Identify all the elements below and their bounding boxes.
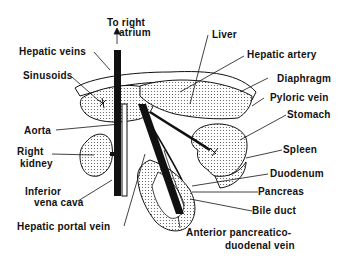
label-pyloric-vein: Pyloric vein	[270, 92, 329, 103]
hepatic-portal-diagram: To right atrium Hepatic veins Sinusoids …	[0, 0, 344, 260]
right-kidney-shape	[80, 134, 112, 176]
label-spleen: Spleen	[283, 144, 317, 155]
label-duodenum: Duodenum	[270, 168, 324, 179]
label-hepatic-portal-vein: Hepatic portal vein	[17, 221, 110, 232]
label-bile-duct: Bile duct	[252, 205, 296, 216]
aorta-vessel	[122, 104, 127, 196]
label-pancreas: Pancreas	[258, 186, 304, 197]
label-diaphragm: Diaphragm	[277, 73, 331, 84]
inferior-vena-cava-vessel	[114, 50, 121, 196]
label-liver: Liver	[212, 29, 237, 40]
label-aorta: Aorta	[24, 125, 51, 136]
label-inferior-vena-cava-2: vena cava	[34, 197, 84, 208]
label-to-right-atrium-2: atrium	[119, 27, 151, 38]
label-sinusoids: Sinusoids	[23, 70, 73, 81]
label-right-kidney-1: Right	[17, 146, 44, 157]
label-hepatic-artery: Hepatic artery	[247, 49, 317, 60]
label-stomach: Stomach	[287, 109, 331, 120]
label-right-kidney-2: kidney	[20, 158, 53, 169]
label-hepatic-veins: Hepatic veins	[19, 46, 86, 57]
label-anterior-pancreaticoduodenal-vein-1: Anterior pancreatico-	[186, 227, 291, 238]
label-anterior-pancreaticoduodenal-vein-2: duodenal vein	[225, 240, 295, 251]
label-inferior-vena-cava-1: Inferior	[25, 186, 61, 197]
